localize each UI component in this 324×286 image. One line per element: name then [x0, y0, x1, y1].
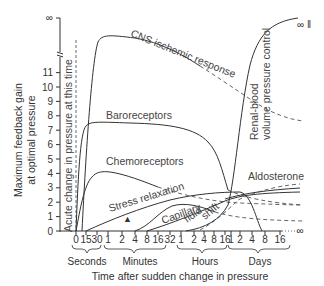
x-tick-label: 4 [132, 234, 138, 245]
y-ticks: 01234567891011 [42, 67, 60, 236]
x-tick-label: 16 [274, 234, 286, 245]
triangle-marker: ▲ [123, 214, 132, 224]
y-tick-label: 1 [47, 211, 53, 222]
y-tick-infinity: ∞ [46, 12, 53, 23]
y-axis-title-line2: at optimal pressure [25, 95, 37, 184]
y-tick-label: 3 [47, 182, 53, 193]
group-label-seconds: Seconds [68, 256, 107, 267]
x-tick-label: 4 [249, 234, 255, 245]
x-tick-label: 1 [105, 234, 111, 245]
capillary-fluid-shift-curve-dashed [215, 212, 303, 221]
baroreceptors-label: Baroreceptors [106, 109, 172, 121]
x-ticks: 0153012481632124816124816∞ [73, 225, 303, 245]
x-tick-label: 8 [144, 234, 150, 245]
renal-curve [186, 18, 298, 231]
renal-label-line1: Renal-blood [248, 83, 260, 140]
y-tick-label: 4 [47, 168, 53, 179]
y-tick-label: 11 [43, 67, 54, 78]
infinity-break-marker: ∞ ‖ [297, 19, 311, 30]
x-tick-label: 0 [73, 234, 79, 245]
x-tick-label: ∞ [296, 225, 303, 236]
y-tick-label: 0 [47, 226, 53, 237]
x-tick-label: 8 [211, 234, 217, 245]
y-tick-label: 7 [47, 125, 53, 136]
x-tick-label: 16 [152, 234, 164, 245]
x-axis: 0153012481632124816124816∞ Seconds Minut… [60, 225, 304, 282]
x-tick-label: 2 [119, 234, 125, 245]
x-tick-label: 32 [164, 234, 176, 245]
y-tick-label: 8 [47, 110, 53, 121]
x-tick-label: 1 [228, 234, 234, 245]
x-tick-label: 30 [91, 234, 103, 245]
aldosterone-label: Aldosterone [248, 170, 304, 182]
y-tick-label: 5 [47, 154, 53, 165]
x-tick-label: 1 [178, 234, 184, 245]
y-tick-label: 2 [47, 197, 53, 208]
y-tick-label: 6 [47, 139, 53, 150]
group-label-minutes: Minutes [122, 256, 157, 267]
cns-label: CNS ischemic response [129, 27, 238, 80]
y-tick-label: 10 [42, 82, 54, 93]
x-tick-label: 2 [191, 234, 197, 245]
group-label-hours: Hours [192, 256, 219, 267]
chemoreceptors-label: Chemoreceptors [106, 155, 184, 167]
x-tick-label: 4 [201, 234, 207, 245]
x-tick-label: 15 [80, 234, 92, 245]
days-brace [228, 245, 290, 253]
hours-brace [177, 245, 227, 253]
group-label-days: Days [249, 256, 272, 267]
x-tick-label: 2 [237, 234, 243, 245]
x-axis-title: Time after sudden change in pressure [92, 270, 269, 282]
y-axis: ∞ 01234567891011 [42, 12, 63, 237]
x-tick-label: 8 [262, 234, 268, 245]
seconds-brace [72, 245, 101, 253]
y-tick-label: 9 [47, 96, 53, 107]
renal-label-line2: volume pressure control [260, 28, 272, 140]
minutes-brace [104, 245, 166, 253]
feedback-gain-chart: ∞ 01234567891011 Maximum feedback gain a… [0, 0, 324, 286]
acute-change-label: Acute change in pressure at this time [62, 59, 74, 232]
y-axis-title-line1: Maximum feedback gain [12, 83, 24, 197]
